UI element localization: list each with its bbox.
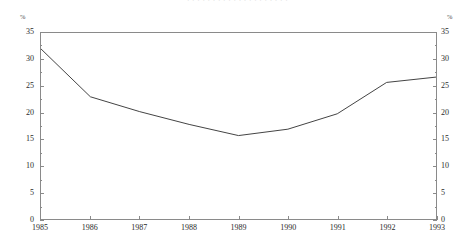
- y-axis-right-tick: [433, 113, 437, 114]
- x-axis-tick-label: 1991: [318, 224, 358, 232]
- clipped-title-fragment: · · · · · · · · · · · · · · · · · · · ·: [0, 0, 475, 4]
- y-axis-right-tick-label: 30: [441, 55, 459, 63]
- y-axis-right-tick: [433, 32, 437, 33]
- y-axis-right-tick: [433, 86, 437, 87]
- data-series-line: [41, 49, 436, 136]
- chart-figure: · · · · · · · · · · · · · · · · · · · · …: [0, 0, 475, 249]
- y-axis-left-tick: [40, 113, 44, 114]
- y-axis-right-tick-label: 25: [441, 82, 459, 90]
- y-axis-left-minor-tick: [40, 45, 42, 46]
- y-axis-left-tick-label: 5: [16, 189, 34, 197]
- x-axis-tick: [139, 216, 140, 220]
- y-axis-left-tick-label: 25: [16, 82, 34, 90]
- x-axis-tick: [239, 216, 240, 220]
- x-axis-tick-label: 1993: [417, 224, 457, 232]
- y-axis-left-tick-label: 20: [16, 109, 34, 117]
- y-axis-right-tick-label: 35: [441, 28, 459, 36]
- x-axis-tick: [437, 216, 438, 220]
- y-axis-right-minor-tick: [435, 207, 437, 208]
- data-line-svg: [41, 33, 436, 219]
- y-axis-left-tick: [40, 166, 44, 167]
- x-axis-tick-label: 1986: [70, 224, 110, 232]
- y-axis-left-tick: [40, 220, 44, 221]
- x-axis-tick-label: 1989: [219, 224, 259, 232]
- x-axis-tick: [40, 216, 41, 220]
- y-axis-right-minor-tick: [435, 72, 437, 73]
- y-axis-left-minor-tick: [40, 180, 42, 181]
- right-axis-unit-label: %: [447, 14, 452, 21]
- x-axis-tick: [338, 216, 339, 220]
- y-axis-right-tick-label: 10: [441, 162, 459, 170]
- x-axis-tick: [387, 216, 388, 220]
- y-axis-right-tick: [433, 166, 437, 167]
- y-axis-right-tick-label: 20: [441, 109, 459, 117]
- y-axis-right-tick-label: 15: [441, 135, 459, 143]
- y-axis-left-tick-label: 30: [16, 55, 34, 63]
- y-axis-right-minor-tick: [435, 180, 437, 181]
- y-axis-left-tick: [40, 59, 44, 60]
- y-axis-right-tick: [433, 139, 437, 140]
- y-axis-right-minor-tick: [435, 153, 437, 154]
- y-axis-left-minor-tick: [40, 126, 42, 127]
- y-axis-left-tick-label: 35: [16, 28, 34, 36]
- plot-area: [40, 32, 437, 220]
- x-axis-tick-label: 1988: [169, 224, 209, 232]
- y-axis-right-tick: [433, 59, 437, 60]
- y-axis-left-minor-tick: [40, 207, 42, 208]
- x-axis-tick-label: 1992: [367, 224, 407, 232]
- x-axis-tick: [189, 216, 190, 220]
- x-axis-tick: [90, 216, 91, 220]
- y-axis-right-minor-tick: [435, 45, 437, 46]
- y-axis-right-tick: [433, 220, 437, 221]
- y-axis-left-tick: [40, 32, 44, 33]
- y-axis-left-tick-label: 10: [16, 162, 34, 170]
- y-axis-right-tick: [433, 193, 437, 194]
- y-axis-right-tick-label: 5: [441, 189, 459, 197]
- y-axis-right-minor-tick: [435, 126, 437, 127]
- x-axis-tick-label: 1985: [20, 224, 60, 232]
- y-axis-left-tick: [40, 86, 44, 87]
- x-axis-tick: [288, 216, 289, 220]
- left-axis-unit-label: %: [20, 14, 25, 21]
- y-axis-left-tick-label: 15: [16, 135, 34, 143]
- y-axis-left-minor-tick: [40, 72, 42, 73]
- x-axis-tick-label: 1990: [268, 224, 308, 232]
- y-axis-right-minor-tick: [435, 99, 437, 100]
- y-axis-left-tick: [40, 193, 44, 194]
- y-axis-left-minor-tick: [40, 99, 42, 100]
- x-axis-tick-label: 1987: [119, 224, 159, 232]
- y-axis-left-minor-tick: [40, 153, 42, 154]
- y-axis-left-tick: [40, 139, 44, 140]
